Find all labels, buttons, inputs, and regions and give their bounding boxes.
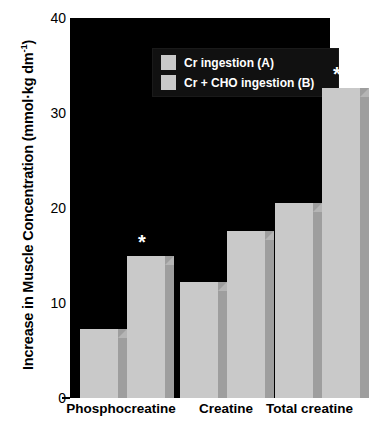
bar-creatine-a: [180, 282, 218, 398]
bar-side-face: [165, 256, 174, 398]
y-tick-label-20: 20: [26, 201, 66, 215]
bar-face: [275, 203, 313, 398]
legend-swatch-icon-a: [161, 55, 176, 70]
bar-face: [80, 329, 118, 398]
y-axis-title-exponent: -1: [18, 44, 29, 52]
bar-side-face: [313, 203, 322, 398]
legend-item-cr-cho-ingestion: Cr + CHO ingestion (B): [161, 74, 314, 91]
bar-side-face: [118, 329, 127, 398]
legend-item-cr-ingestion: Cr ingestion (A): [161, 54, 274, 71]
y-axis-title-tail: ): [20, 40, 36, 45]
legend-label-b: Cr + CHO ingestion (B): [184, 76, 314, 90]
x-axis-label-creatine: Creatine: [186, 401, 266, 416]
legend: Cr ingestion (A) Cr + CHO ingestion (B): [152, 48, 339, 97]
bar-side-face: [360, 88, 369, 398]
bar-total-creatine-b: [322, 88, 360, 398]
x-axis-label-total-creatine: Total creatine: [262, 401, 357, 416]
legend-label-a: Cr ingestion (A): [184, 56, 274, 70]
significance-star-total-creatine: *: [327, 64, 347, 84]
legend-swatch-icon-b: [161, 75, 176, 90]
bar-side-face: [218, 282, 227, 398]
plot-area: Cr ingestion (A) Cr + CHO ingestion (B) …: [70, 18, 330, 398]
y-tick-label-10: 10: [26, 296, 66, 310]
bar-face: [322, 88, 360, 398]
bar-side-face: [265, 231, 274, 398]
bar-face: [127, 256, 165, 398]
bar-face: [227, 231, 265, 398]
significance-star-phosphocreatine: *: [132, 232, 152, 252]
bar-total-creatine-a: [275, 203, 313, 398]
bar-creatine-b: [227, 231, 265, 398]
x-axis-label-phosphocreatine: Phosphocreatine: [56, 401, 186, 416]
y-tick-label-30: 30: [26, 106, 66, 120]
bar-phosphocreatine-b: [127, 256, 165, 398]
bar-phosphocreatine-a: [80, 329, 118, 398]
y-tick-label-40: 40: [26, 11, 66, 25]
bar-face: [180, 282, 218, 398]
y-axis-tick-0: [62, 397, 70, 399]
